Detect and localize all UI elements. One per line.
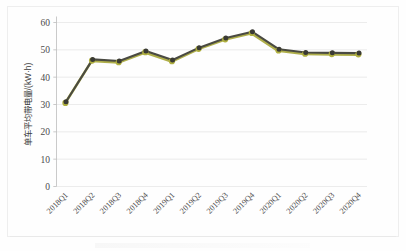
y-axis-title: 单车平均带电量/(kW·h) [23, 63, 33, 147]
y-tick-labels-group: 0102030405060 [41, 18, 51, 192]
x-tick-label: 2019Q3 [205, 191, 230, 216]
x-tick-label: 2018Q2 [72, 191, 97, 216]
gridlines-group [57, 23, 368, 187]
data-point-marker [143, 48, 148, 53]
x-tick-label: 2020Q4 [338, 191, 363, 216]
x-tick-label: 2019Q4 [231, 191, 256, 216]
data-point-marker [90, 57, 95, 62]
data-point-marker [117, 59, 122, 64]
x-tick-label: 2020Q2 [285, 191, 310, 216]
chart-container: 0102030405060 2018Q12018Q22018Q32018Q420… [0, 0, 406, 251]
x-tick-label: 2020Q3 [311, 191, 336, 216]
x-tick-label: 2019Q2 [178, 191, 203, 216]
line-chart-svg: 0102030405060 2018Q12018Q22018Q32018Q420… [0, 0, 406, 251]
y-tick-label: 0 [45, 182, 50, 192]
data-point-marker [357, 51, 362, 56]
data-point-marker [303, 50, 308, 55]
x-tick-labels-group: 2018Q12018Q22018Q32018Q42019Q12019Q22019… [45, 191, 363, 216]
series-line-path [66, 32, 359, 102]
data-point-marker [64, 99, 69, 104]
axes-group [53, 17, 56, 187]
y-tick-label: 50 [41, 45, 51, 55]
x-tick-label: 2019Q1 [151, 191, 176, 216]
data-markers-group [62, 29, 361, 106]
x-tick-label: 2020Q1 [258, 191, 283, 216]
x-tick-label: 2018Q1 [45, 191, 70, 216]
x-tick-label: 2018Q4 [125, 191, 150, 216]
y-tick-label: 10 [41, 155, 51, 165]
y-axis-title-group: 单车平均带电量/(kW·h) [23, 63, 33, 147]
y-tick-label: 30 [41, 100, 51, 110]
data-series-group [65, 32, 359, 103]
data-point-marker [277, 47, 282, 52]
y-tick-label: 20 [41, 127, 51, 137]
y-tick-label: 40 [41, 73, 51, 83]
data-point-marker [223, 36, 228, 41]
x-tick-label: 2018Q3 [98, 191, 123, 216]
data-point-marker [197, 45, 202, 50]
plot-area: 0102030405060 2018Q12018Q22018Q32018Q420… [0, 0, 406, 251]
data-point-marker [330, 50, 335, 55]
data-point-marker [250, 29, 255, 34]
y-tick-label: 60 [41, 18, 51, 28]
data-point-marker [170, 57, 175, 62]
